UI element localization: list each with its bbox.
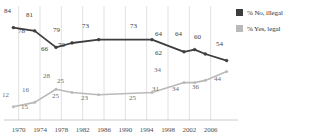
data-label-no-illegal-10: 64 xyxy=(175,31,182,38)
data-label-yes-legal-12: 44 xyxy=(214,76,221,83)
legend-swatch-no-illegal xyxy=(236,9,243,16)
data-label-no-illegal-9: 62 xyxy=(155,50,162,57)
gridlines xyxy=(19,6,211,120)
plot-area: 8481786670797373646264605412161528252523… xyxy=(0,0,240,139)
x-tick-1994: 1994 xyxy=(140,126,154,134)
data-label-no-illegal-4: 70 xyxy=(58,42,65,49)
data-label-no-illegal-12: 54 xyxy=(216,41,223,48)
x-tick-1974: 1974 xyxy=(33,126,47,134)
data-label-no-illegal-8: 64 xyxy=(155,31,162,38)
x-tick-2006: 2006 xyxy=(204,126,218,134)
data-label-no-illegal-0: 84 xyxy=(4,8,11,15)
data-label-yes-legal-8: 34 xyxy=(154,67,161,74)
data-label-yes-legal-7: 25 xyxy=(129,95,136,102)
data-label-no-illegal-5: 79 xyxy=(53,27,60,34)
data-label-yes-legal-9: 31 xyxy=(152,86,159,93)
legend-swatch-yes-legal xyxy=(236,25,243,32)
data-label-no-illegal-11: 60 xyxy=(194,34,201,41)
chart-legend: % No, illegal % Yes, legal xyxy=(236,8,312,40)
data-label-yes-legal-10: 34 xyxy=(172,86,179,93)
x-tick-1978: 1978 xyxy=(55,126,69,134)
data-label-no-illegal-3: 66 xyxy=(41,46,48,53)
x-tick-2002: 2002 xyxy=(183,126,197,134)
x-tick-1986: 1986 xyxy=(97,126,111,134)
chart-root: 8481786670797373646264605412161528252523… xyxy=(0,0,312,139)
legend-label-no-illegal: % No, illegal xyxy=(247,9,283,17)
data-label-no-illegal-7: 73 xyxy=(130,23,137,30)
data-label-no-illegal-1: 81 xyxy=(26,12,33,19)
legend-item-yes-legal: % Yes, legal xyxy=(236,24,312,33)
data-label-no-illegal-6: 73 xyxy=(82,23,89,30)
legend-label-yes-legal: % Yes, legal xyxy=(247,25,280,33)
legend-item-no-illegal: % No, illegal xyxy=(236,8,312,17)
x-tick-1982: 1982 xyxy=(76,126,90,134)
data-label-yes-legal-5: 25 xyxy=(52,93,59,100)
line-chart-svg xyxy=(0,0,240,139)
x-tick-1970: 1970 xyxy=(12,126,26,134)
data-label-no-illegal-2: 78 xyxy=(18,28,25,35)
data-label-yes-legal-2: 15 xyxy=(21,104,28,111)
data-label-yes-legal-0: 12 xyxy=(2,92,9,99)
x-tick-1998: 1998 xyxy=(161,126,175,134)
data-label-yes-legal-6: 23 xyxy=(81,95,88,102)
data-label-yes-legal-4: 25 xyxy=(57,78,64,85)
data-label-yes-legal-1: 16 xyxy=(22,87,29,94)
data-label-yes-legal-11: 36 xyxy=(192,84,199,91)
x-tick-1990: 1990 xyxy=(119,126,133,134)
data-label-yes-legal-3: 28 xyxy=(43,73,50,80)
